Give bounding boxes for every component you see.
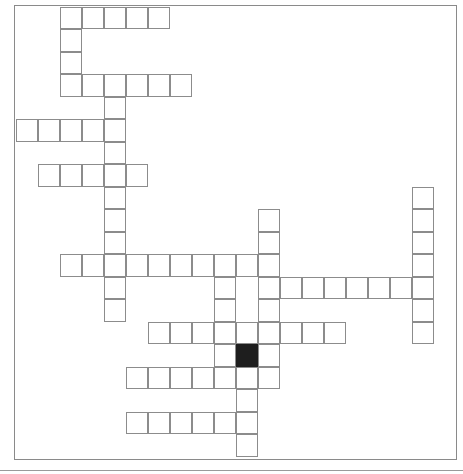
crossword-cell[interactable] <box>214 322 236 345</box>
crossword-cell[interactable] <box>214 367 236 390</box>
crossword-cell[interactable] <box>104 232 126 255</box>
crossword-cell[interactable] <box>16 119 38 142</box>
crossword-cell[interactable] <box>302 322 324 345</box>
crossword-cell[interactable] <box>170 254 192 277</box>
crossword-cell[interactable] <box>280 277 302 300</box>
crossword-cell[interactable] <box>236 412 258 435</box>
crossword-cell[interactable] <box>412 209 434 232</box>
crossword-cell[interactable] <box>60 254 82 277</box>
crossword-cell[interactable] <box>148 367 170 390</box>
crossword-cell[interactable] <box>104 209 126 232</box>
crossword-cell[interactable] <box>60 52 82 75</box>
crossword-cell[interactable] <box>104 142 126 165</box>
crossword-cell[interactable] <box>258 322 280 345</box>
crossword-cell[interactable] <box>258 299 280 322</box>
crossword-cell[interactable] <box>104 299 126 322</box>
crossword-cell[interactable] <box>170 322 192 345</box>
crossword-cell[interactable] <box>82 254 104 277</box>
crossword-cell[interactable] <box>236 434 258 457</box>
divider <box>0 470 463 471</box>
crossword-cell[interactable] <box>302 277 324 300</box>
crossword-cell[interactable] <box>192 254 214 277</box>
crossword-cell[interactable] <box>170 74 192 97</box>
crossword-cell[interactable] <box>104 187 126 210</box>
crossword-cell[interactable] <box>214 254 236 277</box>
crossword-cell[interactable] <box>126 74 148 97</box>
crossword-cell[interactable] <box>104 119 126 142</box>
crossword-cell[interactable] <box>148 7 170 30</box>
crossword-cell[interactable] <box>104 74 126 97</box>
crossword-cell[interactable] <box>148 74 170 97</box>
crossword-cell[interactable] <box>412 322 434 345</box>
crossword-cell[interactable] <box>236 389 258 412</box>
crossword-cell[interactable] <box>280 322 302 345</box>
crossword-cell[interactable] <box>60 7 82 30</box>
crossword-cell[interactable] <box>214 277 236 300</box>
crossword-cell[interactable] <box>170 367 192 390</box>
crossword-cell[interactable] <box>214 412 236 435</box>
crossword-cell[interactable] <box>368 277 390 300</box>
crossword-cell[interactable] <box>82 119 104 142</box>
crossword-cell[interactable] <box>324 322 346 345</box>
crossword-cell[interactable] <box>258 367 280 390</box>
crossword-cell[interactable] <box>148 254 170 277</box>
crossword-cell[interactable] <box>236 367 258 390</box>
crossword-cell[interactable] <box>192 412 214 435</box>
crossword-cell[interactable] <box>126 412 148 435</box>
crossword-cell[interactable] <box>126 7 148 30</box>
crossword-cell[interactable] <box>148 412 170 435</box>
crossword-cell[interactable] <box>104 7 126 30</box>
crossword-cell[interactable] <box>60 74 82 97</box>
crossword-cell[interactable] <box>236 322 258 345</box>
crossword-cell[interactable] <box>412 232 434 255</box>
crossword-cell[interactable] <box>126 367 148 390</box>
crossword-cell[interactable] <box>258 277 280 300</box>
crossword-cell[interactable] <box>214 344 236 367</box>
crossword-cell[interactable] <box>126 254 148 277</box>
crossword-cell[interactable] <box>82 7 104 30</box>
crossword-cell[interactable] <box>412 254 434 277</box>
crossword-cell[interactable] <box>148 322 170 345</box>
crossword-cell[interactable] <box>104 97 126 120</box>
crossword-cell[interactable] <box>38 164 60 187</box>
black-square <box>236 344 258 367</box>
crossword-cell[interactable] <box>126 164 148 187</box>
crossword-cell[interactable] <box>346 277 368 300</box>
crossword-cell[interactable] <box>324 277 346 300</box>
crossword-cell[interactable] <box>258 232 280 255</box>
crossword-cell[interactable] <box>258 344 280 367</box>
crossword-cell[interactable] <box>412 299 434 322</box>
crossword-cell[interactable] <box>104 254 126 277</box>
crossword-cell[interactable] <box>412 277 434 300</box>
crossword-cell[interactable] <box>214 299 236 322</box>
crossword-cell[interactable] <box>192 322 214 345</box>
crossword-cell[interactable] <box>82 164 104 187</box>
crossword-cell[interactable] <box>236 254 258 277</box>
crossword-cell[interactable] <box>258 254 280 277</box>
crossword-cell[interactable] <box>104 277 126 300</box>
crossword-cell[interactable] <box>60 119 82 142</box>
crossword-cell[interactable] <box>412 187 434 210</box>
crossword-cell[interactable] <box>104 164 126 187</box>
crossword-cell[interactable] <box>82 74 104 97</box>
crossword-cell[interactable] <box>390 277 412 300</box>
crossword-cell[interactable] <box>192 367 214 390</box>
crossword-cell[interactable] <box>60 164 82 187</box>
crossword-cell[interactable] <box>38 119 60 142</box>
crossword-cell[interactable] <box>60 29 82 52</box>
crossword-cell[interactable] <box>170 412 192 435</box>
crossword-cell[interactable] <box>258 209 280 232</box>
